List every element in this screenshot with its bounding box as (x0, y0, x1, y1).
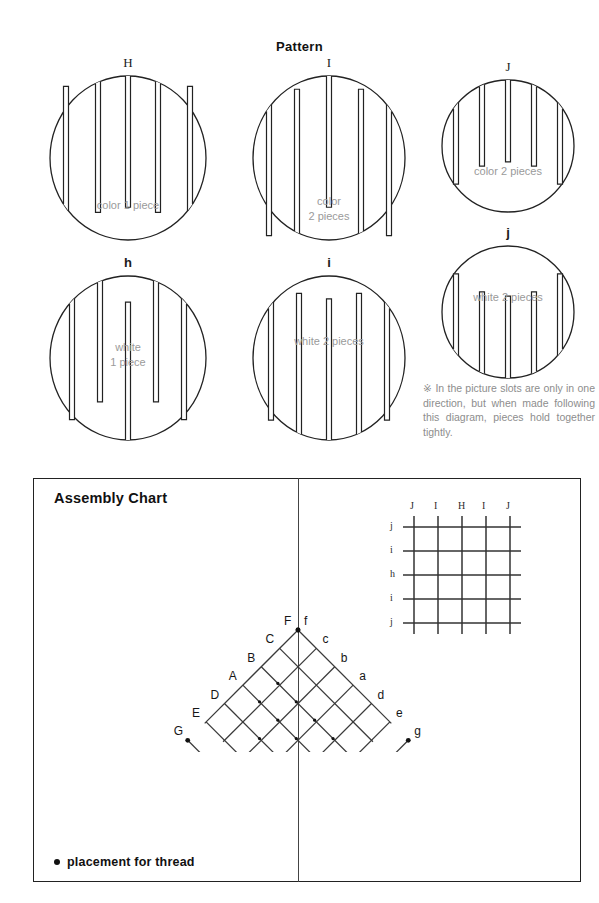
piece-caption-I: color2 pieces (227, 194, 431, 224)
grid-row-label-2: h (390, 568, 395, 579)
piece-label-H: H (24, 55, 232, 71)
pattern-piece-i: iwhite 2 pieces (227, 250, 431, 466)
lattice-label-left-E: E (192, 706, 200, 720)
lattice-label-right-b: b (341, 651, 348, 665)
lattice-label-right-c: c (322, 632, 328, 646)
pattern-piece-J: Jcolor 2 pieces (416, 54, 599, 238)
lattice-label-right-a: a (359, 669, 366, 683)
grid-column-label-1: I (434, 500, 437, 511)
piece-caption-i: white 2 pieces (227, 334, 431, 349)
piece-caption-h: white1 piece (24, 340, 232, 370)
lattice-label-left-A: A (229, 669, 237, 683)
grid-column-label-3: I (482, 500, 485, 511)
lattice-assembly-diagram: GEDABCFfcbadeg (168, 612, 438, 752)
piece-caption-j: white 2 pieces (416, 290, 599, 305)
lattice-label-left-G: G (174, 724, 183, 738)
lattice-label-left-B: B (247, 651, 255, 665)
slot-direction-note: ※ In the picture slots are only in one d… (423, 381, 595, 439)
lattice-label-left-F: F (284, 614, 291, 628)
lattice-label-right-e: e (396, 706, 403, 720)
piece-label-h: h (24, 255, 232, 270)
piece-label-I: I (227, 55, 431, 71)
pattern-piece-h: hwhite1 piece (24, 250, 232, 466)
piece-caption-H: color 1 piece (24, 198, 232, 213)
grid-row-label-0: j (390, 520, 393, 531)
pattern-piece-H: Hcolor 1 piece (24, 50, 232, 266)
grid-column-label-4: J (506, 500, 510, 511)
piece-label-J: J (416, 59, 599, 75)
piece-caption-J: color 2 pieces (416, 164, 599, 179)
lattice-label-left-C: C (266, 632, 275, 646)
thread-dot-icon (54, 859, 60, 865)
grid-row-label-1: i (390, 544, 393, 555)
lattice-label-right-g: g (414, 724, 421, 738)
lattice-label-right-f: f (304, 614, 307, 628)
piece-label-i: i (227, 255, 431, 270)
grid-row-label-3: i (390, 592, 393, 603)
pattern-piece-j: jwhite 2 pieces (416, 220, 599, 404)
lattice-label-left-D: D (210, 688, 219, 702)
pattern-piece-I: Icolor2 pieces (227, 50, 431, 266)
grid-column-label-0: J (410, 500, 414, 511)
assembly-chart-title: Assembly Chart (54, 490, 167, 506)
thread-legend-label: placement for thread (67, 855, 195, 869)
piece-label-j: j (416, 225, 599, 240)
thread-legend: placement for thread (54, 855, 195, 869)
grid-column-label-2: H (458, 500, 465, 511)
lattice-label-right-d: d (378, 688, 385, 702)
